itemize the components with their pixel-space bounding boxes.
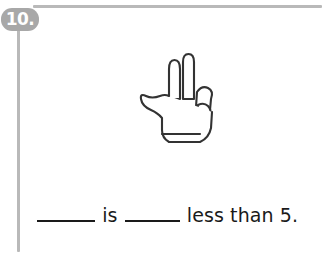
comparison-phrase: less than	[187, 204, 274, 226]
top-divider-rule	[33, 5, 322, 8]
target-number: 5.	[280, 204, 298, 226]
problem-sentence: is less than 5.	[36, 203, 316, 226]
problem-number-badge: 10.	[1, 8, 39, 31]
left-divider-rule	[17, 27, 20, 252]
answer-blank-1[interactable]	[37, 203, 95, 222]
hand-two-fingers-up-icon	[138, 52, 222, 150]
worksheet-problem: 10. is less than 5.	[0, 0, 322, 259]
answer-blank-2[interactable]	[125, 203, 180, 222]
problem-number-label: 10.	[6, 11, 35, 29]
connector-word: is	[102, 204, 117, 226]
